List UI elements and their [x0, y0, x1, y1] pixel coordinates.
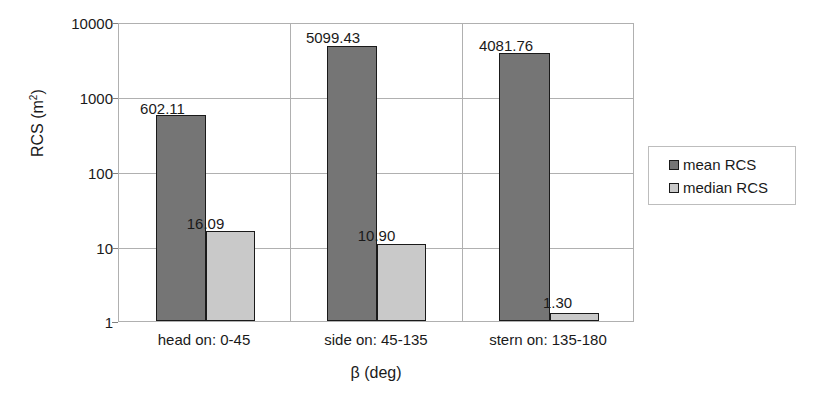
data-label-median-stern-on: 1.30 [515, 295, 600, 310]
plot-area [118, 23, 634, 322]
y-axis-title-exponent: 2 [28, 95, 39, 101]
data-label-mean-head-on: 602.11 [120, 101, 205, 116]
y-tick-mark-10000 [112, 23, 118, 24]
bar-median-head-on[interactable] [206, 231, 255, 321]
data-label-median-side-on: 10.90 [334, 228, 419, 243]
legend-swatch-median-icon [669, 183, 679, 193]
bar-mean-side-on[interactable] [327, 46, 377, 321]
y-axis-title: RCS (m2) [25, 43, 47, 203]
data-label-mean-stern-on: 4081.76 [460, 38, 552, 53]
y-axis-title-text: RCS (m [29, 100, 46, 157]
y-axis-title-paren: ) [29, 89, 46, 94]
category-separator-1 [290, 24, 291, 321]
y-tick-mark-100 [112, 173, 118, 174]
category-separator-2 [462, 24, 463, 321]
bar-mean-stern-on[interactable] [499, 53, 550, 321]
legend-label-mean-rcs: mean RCS [683, 157, 756, 172]
y-tick-mark-1000 [112, 98, 118, 99]
y-tick-label-10000: 10000 [13, 16, 113, 31]
y-tick-mark-10 [112, 248, 118, 249]
data-label-median-head-on: 16.09 [163, 216, 248, 231]
x-axis-title: β (deg) [118, 364, 634, 382]
legend: mean RCS median RCS [648, 146, 796, 205]
legend-label-median-rcs: median RCS [683, 180, 768, 195]
y-tick-label-1: 1 [13, 315, 113, 330]
rcs-bar-chart: 602.11 16.09 5099.43 10.90 4081.76 1.30 … [0, 0, 831, 407]
x-category-label-side-on: side on: 45-135 [290, 332, 462, 348]
bar-median-side-on[interactable] [377, 244, 426, 321]
legend-item-median-rcs[interactable]: median RCS [669, 176, 795, 199]
legend-item-mean-rcs[interactable]: mean RCS [669, 153, 795, 176]
y-tick-label-10: 10 [13, 241, 113, 256]
bar-median-stern-on[interactable] [550, 313, 599, 321]
x-category-label-head-on: head on: 0-45 [118, 332, 290, 348]
data-label-mean-side-on: 5099.43 [287, 30, 379, 45]
y-tick-mark-1 [112, 322, 118, 323]
legend-swatch-mean-icon [669, 160, 679, 170]
x-category-label-stern-on: stern on: 135-180 [462, 332, 634, 348]
